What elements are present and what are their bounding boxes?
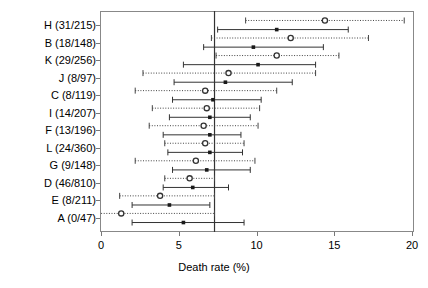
y-axis-tick bbox=[96, 43, 100, 44]
observed-point-marker bbox=[203, 141, 208, 146]
forest-plot-figure: H (31/215)B (18/148)K (29/256)J (8/97)C … bbox=[0, 0, 428, 288]
x-axis-title: Death rate (%) bbox=[0, 261, 428, 273]
adjusted-point-marker bbox=[191, 186, 195, 190]
category-label: K (29/256) bbox=[45, 55, 96, 66]
x-axis-tick bbox=[179, 232, 180, 236]
adjusted-point-marker bbox=[182, 221, 186, 225]
y-axis-tick bbox=[96, 148, 100, 149]
category-label: H (31/215) bbox=[44, 20, 96, 31]
x-axis-tick-label: 0 bbox=[81, 239, 121, 251]
category-label: J (8/97) bbox=[59, 72, 96, 83]
adjusted-point-marker bbox=[208, 115, 212, 119]
x-axis-tick-label: 15 bbox=[314, 239, 354, 251]
x-axis-tick-label: 5 bbox=[159, 239, 199, 251]
observed-point-marker bbox=[201, 123, 206, 128]
x-axis-tick bbox=[412, 232, 413, 236]
y-axis-tick bbox=[96, 218, 100, 219]
x-axis-tick bbox=[101, 232, 102, 236]
category-label: D (46/810) bbox=[44, 177, 96, 188]
observed-point-marker bbox=[226, 70, 231, 75]
category-label: F (13/196) bbox=[45, 125, 96, 136]
y-axis-tick bbox=[96, 60, 100, 61]
x-axis-tick-label: 10 bbox=[237, 239, 277, 251]
adjusted-point-marker bbox=[252, 45, 256, 49]
series-group bbox=[70, 11, 404, 232]
y-axis-tick bbox=[96, 130, 100, 131]
y-axis-tick bbox=[96, 78, 100, 79]
observed-point-marker bbox=[203, 88, 208, 93]
y-axis-tick bbox=[96, 95, 100, 96]
observed-point-marker bbox=[193, 158, 198, 163]
observed-point-marker bbox=[274, 53, 279, 58]
x-axis-tick-label: 20 bbox=[392, 239, 428, 251]
category-label: C (8/119) bbox=[51, 90, 96, 101]
category-label: I (14/207) bbox=[49, 107, 96, 118]
category-label: E (8/211) bbox=[52, 195, 96, 206]
category-label: B (18/148) bbox=[45, 37, 96, 48]
observed-point-marker bbox=[204, 106, 209, 111]
adjusted-point-marker bbox=[256, 63, 260, 67]
category-label: A (0/47) bbox=[57, 212, 96, 223]
category-label: G (9/148) bbox=[50, 160, 96, 171]
observed-point-marker bbox=[157, 193, 162, 198]
y-axis-tick bbox=[96, 25, 100, 26]
y-axis-tick bbox=[96, 113, 100, 114]
category-label: L (24/360) bbox=[46, 142, 96, 153]
observed-point-marker bbox=[288, 35, 293, 40]
adjusted-point-marker bbox=[208, 151, 212, 155]
observed-point-marker bbox=[187, 176, 192, 181]
observed-point-marker bbox=[322, 18, 327, 23]
y-axis-tick bbox=[96, 183, 100, 184]
adjusted-point-marker bbox=[224, 80, 228, 84]
adjusted-point-marker bbox=[208, 133, 212, 137]
x-axis-tick bbox=[257, 232, 258, 236]
y-axis-tick bbox=[96, 165, 100, 166]
adjusted-point-marker bbox=[211, 98, 215, 102]
x-axis-tick bbox=[334, 232, 335, 236]
adjusted-point-marker bbox=[168, 203, 172, 207]
adjusted-point-marker bbox=[205, 168, 209, 172]
observed-point-marker bbox=[119, 211, 124, 216]
y-axis-tick bbox=[96, 200, 100, 201]
adjusted-point-marker bbox=[275, 28, 279, 32]
